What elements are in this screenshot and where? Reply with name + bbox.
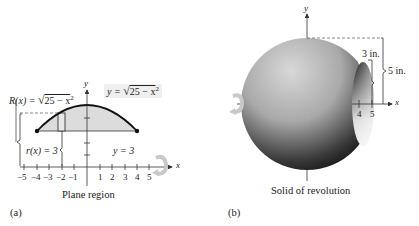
inner-radius-label: r(x) = 3 — [26, 146, 58, 156]
outer-dim-brace — [381, 38, 386, 104]
y-axis-label-b: y — [304, 4, 308, 13]
x-tick-5-b: 5 — [370, 110, 375, 119]
outer-radius-label: R(x) = √25 − x2 — [9, 94, 74, 106]
y-axis-label-a: y — [84, 79, 88, 88]
outer-dim-label: 5 in. — [388, 66, 406, 76]
outer-radius-brace — [17, 114, 22, 166]
curve-label: y = √25 − x2 — [104, 84, 162, 98]
x-tick-4-b: 4 — [357, 110, 362, 119]
caption-a: Plane region — [62, 190, 115, 201]
x-axis-label-a: x — [176, 161, 180, 170]
x-axis-label-b: x — [395, 98, 399, 107]
tag-b: (b) — [228, 208, 240, 219]
panel-b-solid — [229, 14, 392, 181]
endpoint-dot-right — [135, 129, 139, 133]
inner-radius-brace — [60, 131, 62, 166]
representative-rectangle — [58, 113, 65, 131]
inner-dim-label: 3 in. — [362, 49, 380, 59]
endpoint-dot-left — [35, 129, 39, 133]
tag-a: (a) — [10, 208, 22, 219]
caption-b: Solid of revolution — [271, 186, 350, 197]
line-y3-label: y = 3 — [113, 146, 134, 156]
